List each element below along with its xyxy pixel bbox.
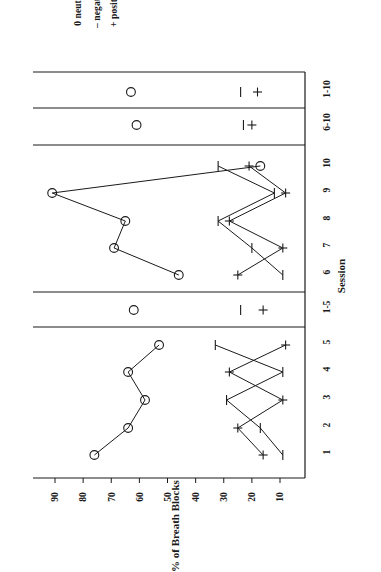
x-tick-text: 6 <box>322 270 332 275</box>
x-tick-label-2: 2 <box>310 420 344 430</box>
x-tick-label-6-10: 6-10 <box>310 117 344 127</box>
y-tick-text: 30 <box>219 492 229 502</box>
y-tick-text: 80 <box>78 492 88 502</box>
y-tick-text: 90 <box>50 492 60 502</box>
y-tick-label-50: 50 <box>156 492 180 502</box>
y-tick-label-90: 90 <box>43 492 67 502</box>
data-point-positive-summary-1-10 <box>253 88 262 97</box>
x-tick-label-3: 3 <box>310 392 344 402</box>
x-tick-label-7: 7 <box>310 240 344 250</box>
data-point-positive-positive-4 <box>225 368 234 377</box>
series-line-positive-panel1 <box>229 166 285 275</box>
data-point-positive-positive-5 <box>281 341 290 350</box>
x-tick-label-10: 10 <box>310 158 344 168</box>
y-tick-label-70: 70 <box>99 492 123 502</box>
x-tick-text: 8 <box>322 216 332 221</box>
data-point-positive-summary-6-10 <box>247 121 256 130</box>
y-tick-text: 70 <box>106 492 116 502</box>
data-point-positive-summary-1-5 <box>259 306 268 315</box>
data-point-neutral-summary-1-5 <box>129 306 138 315</box>
x-tick-text: 2 <box>322 423 332 428</box>
series-line-negative-panel0 <box>215 345 282 455</box>
y-tick-label-80: 80 <box>71 492 95 502</box>
x-tick-text: 7 <box>322 243 332 248</box>
data-point-positive-positive-10 <box>245 162 254 171</box>
y-tick-label-40: 40 <box>184 492 208 502</box>
y-tick-label-10: 10 <box>268 492 292 502</box>
data-point-positive-positive-6 <box>233 271 242 280</box>
data-point-positive-positive-9 <box>281 189 290 198</box>
y-tick-text: 60 <box>134 492 144 502</box>
y-tick-label-30: 30 <box>212 492 236 502</box>
x-tick-label-5: 5 <box>310 337 344 347</box>
x-tick-label-1-10: 1-10 <box>310 84 344 94</box>
data-point-positive-positive-7 <box>278 244 287 253</box>
data-point-positive-positive-3 <box>278 396 287 405</box>
x-tick-text: 5 <box>322 340 332 345</box>
y-tick-text: 50 <box>163 492 173 502</box>
x-tick-text: 1-10 <box>322 80 332 97</box>
x-tick-label-1: 1 <box>310 447 344 457</box>
y-tick-label-60: 60 <box>127 492 151 502</box>
x-tick-label-6: 6 <box>310 267 344 277</box>
x-tick-text: 6-10 <box>322 113 332 130</box>
data-point-neutral-summary-1-10 <box>127 88 136 97</box>
data-point-positive-positive-8 <box>225 217 234 226</box>
x-tick-text: 1-5 <box>322 301 332 314</box>
x-tick-label-4: 4 <box>310 364 344 374</box>
y-tick-text: 10 <box>275 492 285 502</box>
x-tick-text: 1 <box>322 450 332 455</box>
x-tick-label-9: 9 <box>310 185 344 195</box>
data-point-neutral-neutral-1 <box>90 451 99 460</box>
x-tick-text: 4 <box>322 367 332 372</box>
x-tick-text: 9 <box>322 188 332 193</box>
y-tick-text: 40 <box>191 492 201 502</box>
x-tick-text: 10 <box>322 158 332 168</box>
x-tick-label-1-5: 1-5 <box>310 302 344 312</box>
y-tick-text: 20 <box>247 492 257 502</box>
data-point-neutral-summary-6-10 <box>132 121 141 130</box>
x-tick-text: 3 <box>322 395 332 400</box>
x-tick-label-8: 8 <box>310 213 344 223</box>
y-tick-label-20: 20 <box>240 492 264 502</box>
